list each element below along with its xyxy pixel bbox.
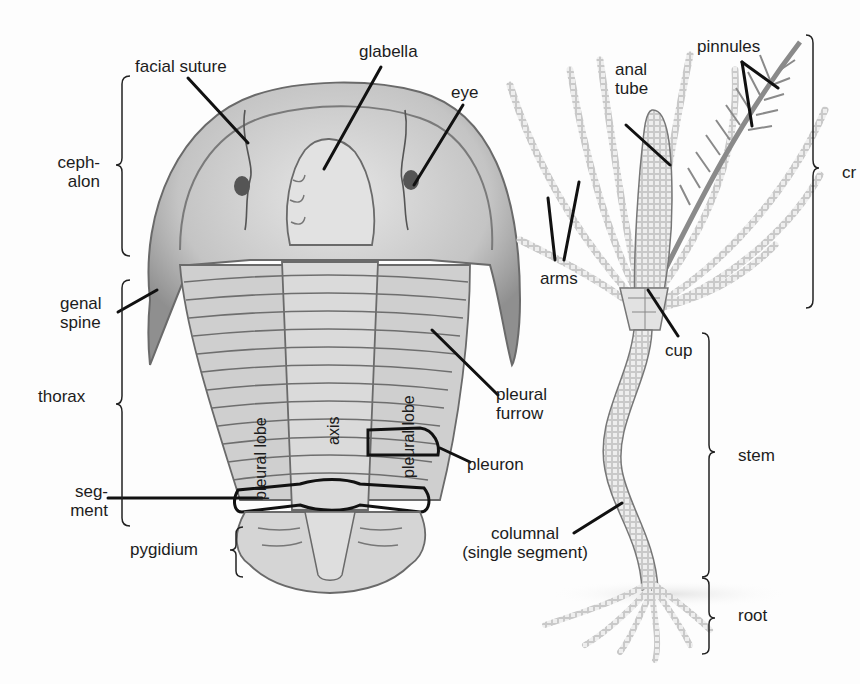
label-segment: seg- ment: [50, 482, 108, 520]
stem-shape: [603, 330, 658, 590]
label-pleural-furrow-line1: pleural: [496, 385, 547, 404]
label-crown-truncated: cr: [842, 163, 856, 182]
label-stem: stem: [738, 446, 775, 465]
label-segment-line2: ment: [50, 501, 108, 520]
diagram-artwork: [0, 0, 860, 684]
label-cephalon-line1: ceph-: [40, 153, 100, 172]
label-root: root: [738, 606, 767, 625]
label-anal-tube: anal tube: [615, 60, 648, 98]
label-pleural-furrow-line2: furrow: [496, 404, 547, 423]
label-thorax: thorax: [38, 387, 85, 406]
label-anal-tube-line1: anal: [615, 60, 648, 79]
label-genal-spine: genal spine: [60, 294, 102, 332]
label-columnal-line2: (single segment): [445, 543, 605, 562]
label-eye: eye: [451, 83, 478, 102]
label-facial-suture: facial suture: [135, 57, 227, 76]
label-pleural-lobe-right: pleural lobe: [400, 395, 418, 478]
label-columnal: columnal (single segment): [445, 524, 605, 562]
label-cup: cup: [665, 341, 692, 360]
label-pygidium: pygidium: [130, 540, 198, 559]
fossil-anatomy-diagram: facial suture glabella eye ceph- alon ge…: [0, 0, 860, 684]
label-genal-spine-line2: spine: [60, 313, 102, 332]
eye-left: [234, 176, 250, 196]
label-axis: axis: [325, 417, 343, 445]
label-cephalon-line2: alon: [40, 172, 100, 191]
trilobite-illustration: [148, 83, 520, 593]
label-arms: arms: [540, 269, 578, 288]
label-pinnules: pinnules: [697, 37, 760, 56]
label-pleural-lobe-left: pleural lobe: [252, 417, 270, 500]
label-segment-line1: seg-: [50, 482, 108, 501]
label-genal-spine-line1: genal: [60, 294, 102, 313]
label-pleuron: pleuron: [467, 455, 524, 474]
label-glabella: glabella: [359, 42, 418, 61]
label-cephalon: ceph- alon: [40, 153, 100, 191]
label-anal-tube-line2: tube: [615, 79, 648, 98]
label-pleural-furrow: pleural furrow: [496, 385, 547, 423]
label-columnal-line1: columnal: [445, 524, 605, 543]
